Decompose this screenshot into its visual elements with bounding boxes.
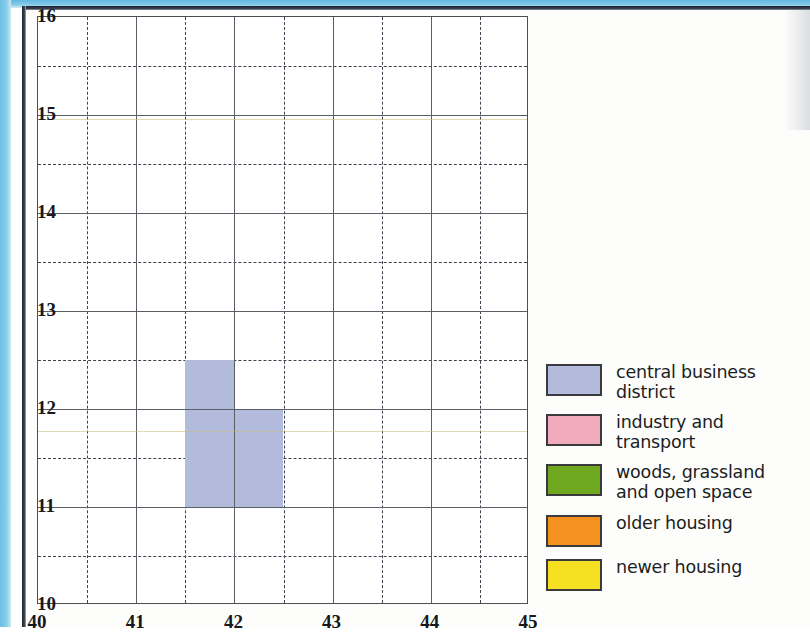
plot-area [37, 16, 528, 604]
map-region-central-business-district [185, 360, 234, 507]
x-axis-tick-label: 42 [224, 611, 243, 632]
gridline-vertical-minor [284, 17, 285, 603]
gridline-horizontal-major [38, 311, 527, 312]
legend-item: industry and transport [546, 413, 808, 452]
gridline-horizontal-minor [38, 66, 527, 67]
gridline-horizontal-minor [38, 556, 527, 557]
legend-item-label: woods, grassland and open space [616, 463, 765, 502]
x-axis-tick-label: 45 [519, 611, 538, 632]
gridline-vertical-minor [480, 17, 481, 603]
gridline-horizontal-major [38, 507, 527, 508]
map-region-central-business-district [234, 409, 283, 507]
gridline-horizontal-minor [38, 360, 527, 361]
gridline-vertical-minor [382, 17, 383, 603]
scan-gutter-shadow-left [22, 6, 26, 627]
legend-swatch-newer-housing [546, 559, 602, 591]
legend-item: woods, grassland and open space [546, 463, 808, 502]
x-axis-tick-label: 40 [28, 611, 47, 632]
legend-item: newer housing [546, 558, 808, 591]
scan-artefact-rule-lower [38, 431, 527, 432]
legend-item: older housing [546, 514, 808, 547]
scan-artefact-rule-upper [38, 119, 527, 120]
gridline-vertical-major [431, 17, 432, 603]
scan-gutter-shadow-top [22, 6, 810, 10]
gridline-vertical-major [136, 17, 137, 603]
legend-swatch-central-business-district [546, 364, 602, 396]
map-grid-chart: 10111213141516 404142434445 [37, 16, 528, 604]
legend-swatch-older-housing [546, 515, 602, 547]
legend-item-label: older housing [616, 514, 733, 534]
gridline-vertical-minor [185, 17, 186, 603]
x-axis-tick-label: 43 [322, 611, 341, 632]
gridline-vertical-major [234, 17, 235, 603]
legend-item-label: industry and transport [616, 413, 808, 452]
legend-item-label: central business district [616, 363, 756, 402]
legend-swatch-industry-and-transport [546, 414, 602, 446]
gridline-horizontal-minor [38, 262, 527, 263]
scan-edge-left [0, 0, 11, 627]
legend-item-label: newer housing [616, 558, 742, 578]
x-axis-tick-label: 44 [420, 611, 439, 632]
map-legend: central business districtindustry and tr… [546, 363, 808, 602]
legend-item: central business district [546, 363, 808, 402]
x-axis-tick-label: 41 [126, 611, 145, 632]
gridline-horizontal-major [38, 115, 527, 116]
gridline-vertical-major [333, 17, 334, 603]
gridline-horizontal-minor [38, 164, 527, 165]
gridline-vertical-minor [87, 17, 88, 603]
legend-swatch-woods-grassland-open-space [546, 464, 602, 496]
gridline-horizontal-major [38, 213, 527, 214]
gridline-horizontal-major [38, 409, 527, 410]
scan-shadow-right [784, 10, 810, 130]
